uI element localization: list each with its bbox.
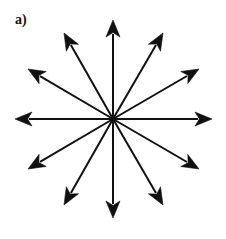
arrow-group <box>15 20 212 218</box>
arrow-120deg-shaft <box>71 45 113 119</box>
arrow-30deg-head <box>181 69 199 84</box>
arrow-60deg-head <box>148 33 163 51</box>
arrow-30deg-shaft <box>113 76 187 119</box>
radial-arrow-diagram <box>0 0 226 239</box>
arrow-120deg-head <box>64 33 79 51</box>
arrow-210deg <box>28 119 113 169</box>
arrow-120deg <box>64 33 113 119</box>
arrow-150deg-head <box>28 69 46 84</box>
arrow-270deg <box>106 119 120 218</box>
arrow-330deg <box>113 119 199 169</box>
arrow-300deg-shaft <box>113 119 156 193</box>
arrow-60deg <box>113 33 163 119</box>
arrow-240deg <box>64 119 113 205</box>
arrow-300deg <box>113 119 163 205</box>
arrow-300deg-head <box>148 187 163 205</box>
arrow-240deg-head <box>64 187 79 205</box>
arrow-330deg-shaft <box>113 119 187 162</box>
arrow-210deg-shaft <box>40 119 113 162</box>
arrow-180deg <box>15 112 113 126</box>
arrow-150deg-shaft <box>40 76 113 119</box>
arrow-150deg <box>28 69 113 119</box>
figure-panel: a) <box>0 0 226 239</box>
arrow-240deg-shaft <box>71 119 113 193</box>
arrow-30deg <box>113 69 199 119</box>
arrow-330deg-head <box>181 154 199 169</box>
arrow-210deg-head <box>28 154 46 169</box>
arrow-60deg-shaft <box>113 45 156 119</box>
arrow-90deg <box>106 20 120 119</box>
arrow-0deg <box>113 112 212 126</box>
